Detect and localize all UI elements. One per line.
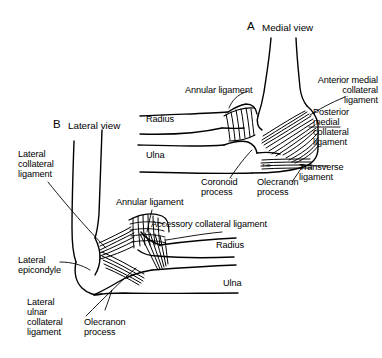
ulna-inferior-border-b	[94, 293, 238, 295]
label-olecranon-process-b-line1: Olecranon	[84, 317, 126, 327]
lucl-fiber-5	[106, 268, 139, 285]
annular-fiber-a4	[241, 109, 245, 138]
annular-fiber-a6	[251, 109, 254, 135]
label-coronoid-process-line1: Coronoid	[201, 177, 237, 187]
annular-lower-edge-a	[229, 135, 255, 141]
panel-b-letter: B	[53, 118, 61, 130]
label-lateral-epicondyle-line1: Lateral	[18, 255, 45, 265]
artist-signature: T.Ж	[262, 163, 270, 168]
label-ulna-a: Ulna	[146, 150, 165, 160]
humerus-posterior-border-b	[72, 141, 76, 262]
label-ulna-b: Ulna	[223, 278, 242, 288]
lucl-fiber-1	[102, 252, 144, 274]
annular-fiber-a5	[246, 108, 250, 137]
ulna-inferior-border-a	[140, 172, 252, 173]
lcl-fiber-2	[100, 237, 134, 253]
label-radius-a: Radius	[146, 114, 174, 124]
panel-a-letter: A	[247, 20, 255, 32]
leader-lcl	[48, 182, 106, 248]
panel-b-title: Lateral view	[68, 120, 120, 131]
annular-fiber-a3	[236, 110, 240, 139]
ulna-superior-border-a	[138, 145, 224, 146]
label-olecranon-process-b-line2: process	[84, 327, 115, 337]
trochlear-notch-a	[257, 152, 280, 154]
anatomy-figure: A Medial view Annular ligament Radius Ul…	[0, 0, 382, 358]
acl-fiber-6	[165, 239, 168, 264]
label-coronoid-process-line2: process	[201, 187, 232, 197]
panel-a-title: Medial view	[262, 22, 313, 33]
ulna-superior-border-b	[152, 265, 236, 270]
lucl-fiber-2	[102, 256, 144, 278]
label-olecranon-process-a-line1: Olecranon	[257, 177, 299, 187]
label-posterior-medial-collateral-ligament-line2: medial	[313, 117, 339, 127]
radius-inferior-border-b	[158, 256, 234, 258]
label-lateral-ulnar-collateral-ligament-line1: Lateral	[27, 297, 54, 307]
coronoid-process-outline-a	[224, 141, 257, 153]
label-annular-ligament-b: Annular ligament	[116, 197, 183, 207]
amcl-fiber-2	[269, 122, 314, 151]
label-annular-ligament-a: Annular ligament	[185, 85, 252, 95]
label-accessory-collateral-ligament: Accessory collateral ligament	[151, 219, 267, 229]
label-lateral-ulnar-collateral-ligament-line2: ulnar	[27, 307, 47, 317]
label-anterior-medial-collateral-ligament-line3: ligament	[268, 95, 378, 105]
label-lateral-epicondyle-line2: epicondyle	[18, 265, 61, 275]
humerus-anterior-border-b	[95, 130, 102, 238]
label-posterior-medial-collateral-ligament-line4: ligament	[313, 137, 347, 147]
label-anterior-medial-collateral-ligament-line2: collateral	[268, 85, 378, 95]
label-lateral-collateral-ligament-line3: ligament	[18, 169, 52, 179]
label-lateral-ulnar-collateral-ligament-line3: collateral	[27, 317, 63, 327]
label-lateral-collateral-ligament-line1: Lateral	[18, 149, 45, 159]
annular-fiber-a1	[226, 114, 230, 140]
label-posterior-medial-collateral-ligament-line3: collateral	[313, 127, 349, 137]
label-anterior-medial-collateral-ligament-line1: Anterior medial	[268, 75, 378, 85]
label-transverse-ligament-line1: Transverse	[299, 162, 344, 172]
label-lateral-ulnar-collateral-ligament-line4: ligament	[27, 327, 61, 337]
annular-fiber-a2	[231, 112, 235, 140]
radius-inferior-border-a	[140, 128, 222, 134]
label-olecranon-process-a-line2: process	[257, 187, 288, 197]
capitellum-inferior-b	[95, 257, 100, 275]
label-transverse-ligament-line2: ligament	[299, 172, 333, 182]
label-lateral-collateral-ligament-line2: collateral	[18, 159, 54, 169]
label-posterior-medial-collateral-ligament-line1: Posterior	[313, 107, 349, 117]
humerus-distal-medial-a	[257, 116, 262, 130]
label-radius-b: Radius	[216, 240, 244, 250]
acl-fiber-2	[145, 233, 160, 269]
